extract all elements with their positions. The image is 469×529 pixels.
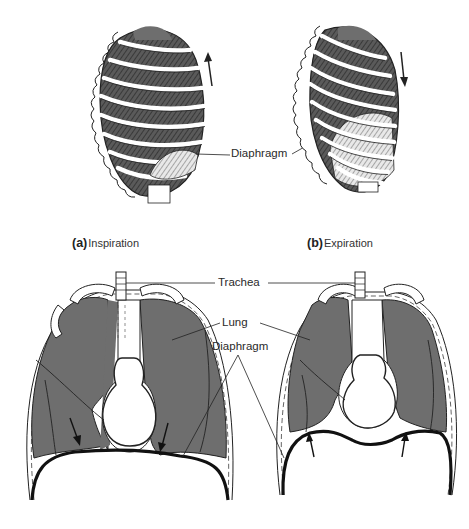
- chest-frontal-inspiration: [27, 272, 233, 500]
- caption-letter-a: (a): [72, 236, 87, 250]
- caption-letter-b: (b): [307, 236, 323, 250]
- arrow-up-icon: [204, 52, 212, 86]
- respiration-diagram: [0, 0, 469, 529]
- ribcage-expiration: [293, 26, 408, 192]
- caption-expiration: (b)Expiration: [307, 236, 373, 250]
- label-diaphragm-top: Diaphragm: [231, 147, 287, 159]
- arrow-down-icon: [400, 52, 408, 87]
- label-diaphragm-bottom: Diaphragm: [212, 340, 268, 352]
- caption-text-a: Inspiration: [88, 237, 139, 249]
- label-trachea: Trachea: [218, 276, 260, 288]
- caption-text-b: Expiration: [324, 237, 373, 249]
- caption-inspiration: (a)Inspiration: [72, 236, 139, 250]
- label-lung: Lung: [222, 316, 248, 328]
- chest-frontal-expiration: [277, 272, 457, 495]
- ribcage-inspiration: [91, 26, 212, 203]
